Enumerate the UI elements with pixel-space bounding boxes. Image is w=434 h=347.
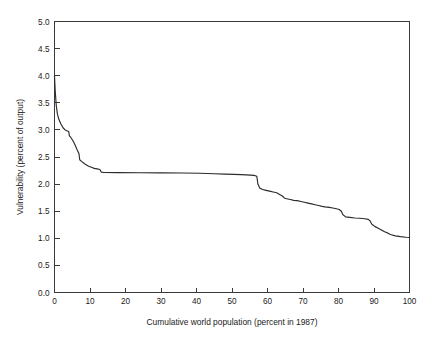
x-tick-label: 40 — [192, 297, 202, 306]
y-tick-label: 1.5 — [38, 207, 50, 216]
chart-figure: 0.00.51.01.52.02.53.03.54.04.55.0 010203… — [0, 0, 434, 347]
y-tick-label: 4.0 — [38, 72, 50, 81]
y-tick-label: 2.5 — [38, 153, 50, 162]
x-tick-label: 50 — [227, 297, 237, 306]
y-tick-label: 5.0 — [38, 18, 50, 27]
vulnerability-line-chart: 0.00.51.01.52.02.53.03.54.04.55.0 010203… — [0, 0, 434, 347]
x-tick-label: 90 — [369, 297, 379, 306]
x-tick-label: 10 — [85, 297, 95, 306]
y-tick-label: 4.5 — [38, 45, 50, 54]
y-tick-label: 3.0 — [38, 126, 50, 135]
y-tick-label: 2.0 — [38, 180, 50, 189]
y-tick-label: 3.5 — [38, 99, 50, 108]
y-tick-label: 0.5 — [38, 261, 50, 270]
y-axis-title: Vulnerability (percent of output) — [15, 99, 25, 215]
x-tick-label: 60 — [263, 297, 273, 306]
x-tick-label: 100 — [403, 297, 417, 306]
y-tick-label: 1.0 — [38, 234, 50, 243]
y-tick-label: 0.0 — [38, 289, 50, 298]
x-axis-title: Cumulative world population (percent in … — [147, 317, 318, 327]
x-tick-label: 70 — [298, 297, 308, 306]
x-tick-label: 20 — [121, 297, 131, 306]
x-tick-label: 0 — [52, 297, 57, 306]
x-tick-label: 30 — [156, 297, 166, 306]
x-tick-label: 80 — [334, 297, 344, 306]
